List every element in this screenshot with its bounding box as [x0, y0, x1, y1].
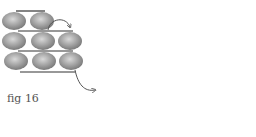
exit-arrow-icon: [75, 70, 95, 90]
bead-diagram: [0, 0, 256, 137]
beads: [2, 12, 83, 70]
figure-caption: fig 16: [7, 92, 39, 105]
left-bead-panel: [2, 11, 95, 90]
